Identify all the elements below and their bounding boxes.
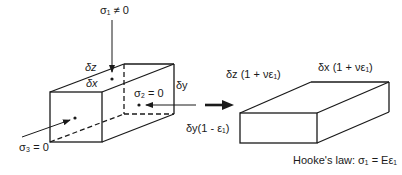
sigma1-label: σ₁ ≠ 0 xyxy=(100,5,129,16)
sigma3-arrow xyxy=(22,116,77,137)
stress-strain-diagram xyxy=(0,0,402,175)
dy-deformed-label: δy(1 - ε₁) xyxy=(186,123,229,134)
dx-deformed-label: δx (1 + νε₁) xyxy=(318,62,373,73)
sigma2-arrow xyxy=(137,103,196,106)
dz-deformed-label: δz (1 + νε₁) xyxy=(226,69,281,80)
deformed-element-box xyxy=(240,82,389,143)
sigma3-label: σ₃ = 0 xyxy=(19,142,49,153)
sigma2-label: σ₂ = 0 xyxy=(134,88,164,99)
dy-label: δy xyxy=(176,80,188,91)
sigma1-arrow xyxy=(110,20,113,81)
dz-label: δz xyxy=(85,62,97,73)
deformation-arrow xyxy=(205,100,234,110)
original-element-cube xyxy=(50,64,174,142)
dx-label: δx xyxy=(86,78,98,89)
hookes-law-caption: Hooke's law: σ₁ = Eε₁ xyxy=(293,155,397,166)
